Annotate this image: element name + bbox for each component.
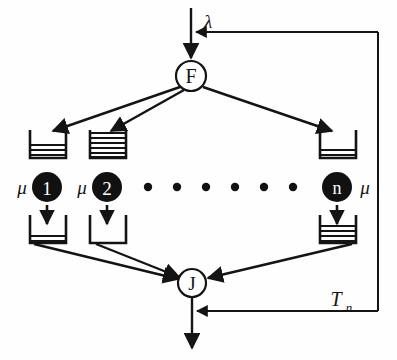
server-label-2: 2 [102, 178, 112, 199]
server-label-n: n [333, 178, 342, 198]
feedback-loop [196, 32, 378, 311]
join-node-label: J [188, 273, 195, 294]
diagram-canvas: F J 1 2 n λ μ μ μ T n [0, 0, 397, 360]
ellipsis-dots [144, 183, 297, 191]
service-rate-label-n: μ [359, 177, 370, 198]
service-rate-label-1: μ [16, 177, 27, 198]
arrival-rate-label: λ [203, 11, 212, 32]
in-buffer-n [320, 130, 356, 158]
ellipsis-dot [289, 183, 297, 191]
ellipsis-dot [173, 183, 181, 191]
ellipsis-dot [144, 183, 152, 191]
ellipsis-dot [260, 183, 268, 191]
fork-node-label: F [185, 65, 196, 87]
in-buffer-2 [90, 130, 126, 158]
server-2-to-join [96, 244, 179, 277]
service-rate-label-2: μ [76, 177, 87, 198]
ellipsis-dot [231, 183, 239, 191]
in-buffer-1 [30, 130, 66, 158]
ellipsis-dot [202, 183, 210, 191]
server-label-1: 1 [42, 178, 52, 199]
fork-join-diagram: F J 1 2 n λ μ μ μ T n [0, 0, 397, 360]
fork-out-arrows [53, 87, 332, 131]
fork-to-server-n [203, 87, 332, 131]
feedback-label-subscript: n [346, 300, 353, 315]
server-n-to-join [208, 244, 352, 278]
feedback-label-main: T [330, 288, 343, 310]
fork-to-server-2 [111, 90, 184, 131]
fork-to-server-1 [53, 87, 180, 131]
